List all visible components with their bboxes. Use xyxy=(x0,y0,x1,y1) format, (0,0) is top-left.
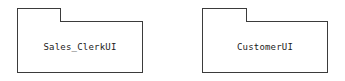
uml-package-diagram-canvas: Sales_ClerkUI CustomerUI xyxy=(0,0,345,81)
package-tab-sales-clerk-ui xyxy=(17,8,61,22)
package-body-customer-ui[interactable]: CustomerUI xyxy=(202,21,328,73)
package-label-customer-ui: CustomerUI xyxy=(237,42,293,53)
package-label-sales-clerk-ui: Sales_ClerkUI xyxy=(43,42,116,53)
package-tab-customer-ui xyxy=(202,8,247,22)
package-body-sales-clerk-ui[interactable]: Sales_ClerkUI xyxy=(17,21,143,73)
